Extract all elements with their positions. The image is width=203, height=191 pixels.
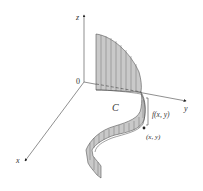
point-label: (x, y)	[146, 133, 161, 141]
curve-label: C	[112, 102, 119, 113]
z-axis-label: z	[75, 13, 80, 22]
point-marker	[143, 127, 146, 130]
x-axis-label: x	[15, 156, 20, 165]
curtain-upper-panel	[96, 34, 141, 92]
y-axis-label: y	[183, 104, 188, 113]
x-axis	[25, 82, 84, 161]
origin-label: 0	[76, 77, 80, 86]
height-bracket	[146, 98, 148, 125]
height-label: f(x, y)	[152, 110, 170, 119]
curtain-surface-diagram: z y x 0 C f(x, y) (x, y)	[0, 0, 203, 191]
